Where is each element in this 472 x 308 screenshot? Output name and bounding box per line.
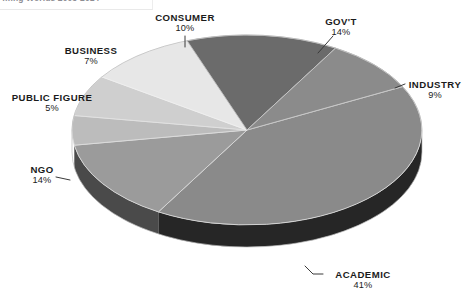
pie-label-academic: ACADEMIC 41%	[320, 269, 406, 291]
pie-label-business: BUSINESS 7%	[56, 45, 126, 67]
pie-label-consumer-pct: 10%	[147, 23, 223, 34]
pie-label-ngo: NGO 14%	[20, 164, 64, 186]
pie-label-public-figure-pct: 5%	[6, 103, 98, 114]
pie-label-industry: INDUSTRY 9%	[398, 79, 472, 101]
pie-label-public-figure: PUBLIC FIGURE 5%	[6, 92, 98, 114]
pie-label-govt: GOV'T 14%	[310, 16, 372, 38]
pie-label-business-pct: 7%	[56, 56, 126, 67]
pie-label-govt-name: GOV'T	[310, 16, 372, 27]
pie-label-business-name: BUSINESS	[56, 45, 126, 56]
pie-label-industry-pct: 9%	[398, 90, 472, 101]
pie-label-ngo-pct: 14%	[20, 175, 64, 186]
pie-label-consumer: CONSUMER 10%	[147, 12, 223, 34]
pie-label-academic-pct: 41%	[320, 280, 406, 291]
pie-label-public-figure-name: PUBLIC FIGURE	[6, 92, 98, 103]
pie-label-ngo-name: NGO	[20, 164, 64, 175]
pie-label-industry-name: INDUSTRY	[398, 79, 472, 90]
pie-label-consumer-name: CONSUMER	[147, 12, 223, 23]
pie-label-academic-name: ACADEMIC	[320, 269, 406, 280]
pie-chart-figure: …ing Worlds 2005-2014	[0, 0, 472, 308]
pie-label-govt-pct: 14%	[310, 27, 372, 38]
